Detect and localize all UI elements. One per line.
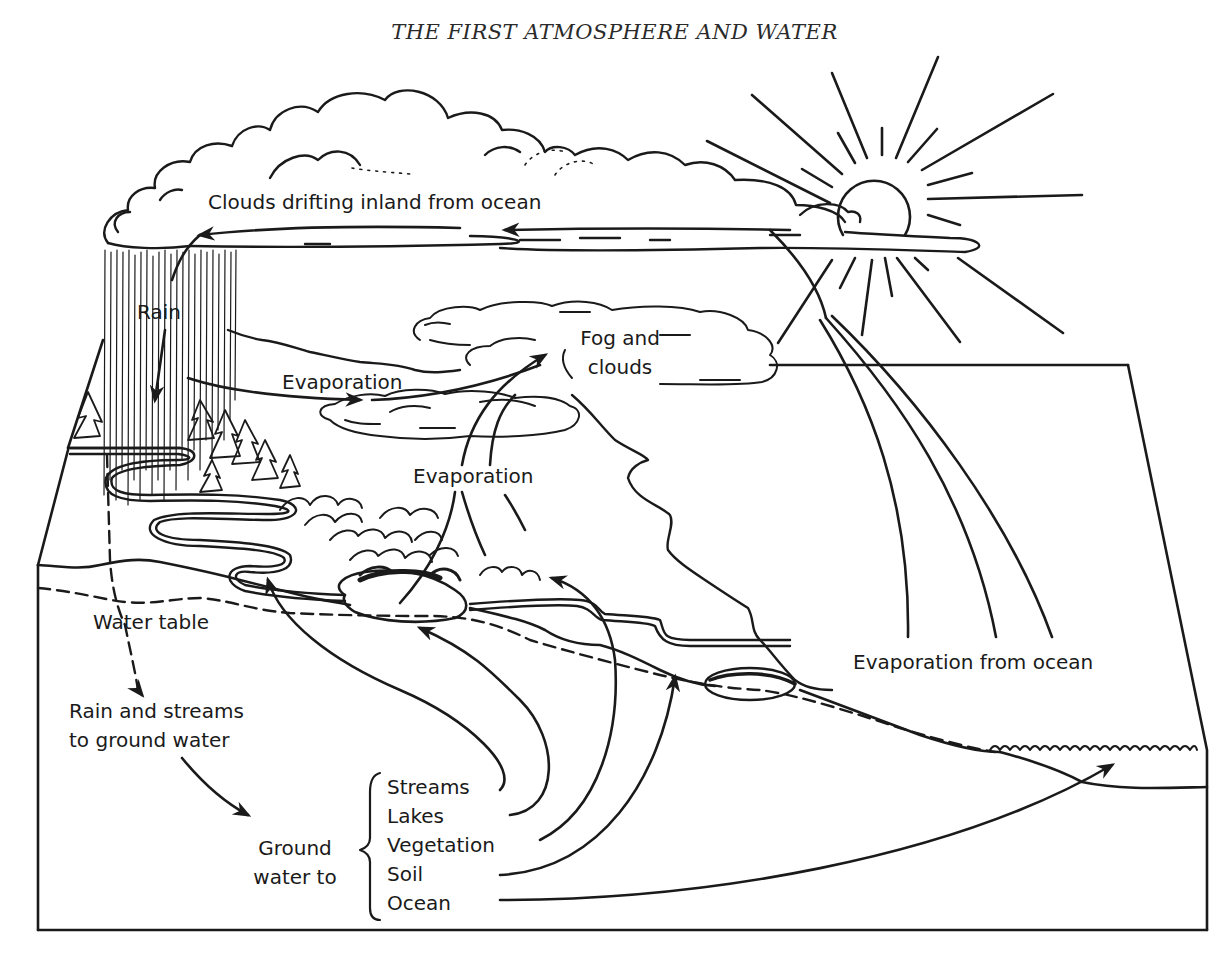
- sun-icon: [707, 57, 1082, 343]
- lake: [339, 571, 466, 622]
- label-rain-streams-line1: Rain and streams: [69, 697, 244, 726]
- label-evaporation-ocean: Evaporation from ocean: [853, 648, 1093, 677]
- ground-water-destinations-list: Streams Lakes Vegetation Soil Ocean: [387, 773, 495, 918]
- label-fog-and-clouds: Fog and clouds: [575, 324, 665, 382]
- water-cycle-diagram: [0, 0, 1229, 953]
- label-ground-water-to: Ground water to: [240, 834, 350, 892]
- label-ground-water-line1: Ground: [240, 834, 350, 863]
- terrain-block: [38, 340, 1207, 930]
- label-rain-streams-line2: to ground water: [69, 726, 244, 755]
- cloud-highlight: [352, 150, 595, 175]
- brace: [360, 773, 380, 920]
- label-evaporation-lake: Evaporation: [413, 462, 533, 491]
- label-evaporation-land: Evaporation: [282, 368, 402, 397]
- label-ground-water-line2: water to: [240, 863, 350, 892]
- wave-icon: [990, 746, 1197, 750]
- lagoon: [705, 668, 795, 700]
- label-rain-and-streams: Rain and streams to ground water: [69, 697, 244, 755]
- label-rain: Rain: [137, 298, 181, 327]
- list-item-soil: Soil: [387, 860, 495, 889]
- hill-ridge: [228, 330, 460, 372]
- label-water-table: Water table: [93, 608, 209, 637]
- label-fog-line2: clouds: [575, 353, 665, 382]
- vegetation: [280, 496, 540, 580]
- list-item-lakes: Lakes: [387, 802, 495, 831]
- list-item-streams: Streams: [387, 773, 495, 802]
- list-item-vegetation: Vegetation: [387, 831, 495, 860]
- list-item-ocean: Ocean: [387, 889, 495, 918]
- label-fog-line1: Fog and: [575, 324, 665, 353]
- label-clouds-drifting: Clouds drifting inland from ocean: [208, 188, 541, 217]
